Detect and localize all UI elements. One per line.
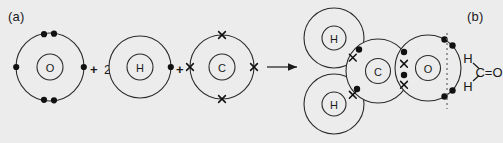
structural-formula: H H C=O [463,51,502,94]
carbon-symbol: C [218,62,226,74]
atom-hydrogen-reactant: H [109,36,174,98]
arrow-head [288,63,297,71]
oxygen-symbol: O [46,62,55,74]
oxygen-electron-dot [51,97,57,103]
figure-canvas: (a) (b) + 2 + O H [0,0,503,143]
lone-pair-electron-dot [449,87,455,93]
product-h-bottom-symbol: H [330,99,338,111]
product-methanal: H H C O [304,8,461,134]
atom-carbon-reactant: C [187,32,258,103]
formula-core: C=O [475,65,502,80]
oxygen-electron-dot [41,97,47,103]
oxygen-electron-dot [81,64,87,70]
lone-pair-electron-dot [449,42,455,48]
oxygen-electron-dot [41,31,47,37]
product-h-top-symbol: H [330,33,338,45]
oxygen-electron-dot [13,64,19,70]
formula-h-bottom: H [463,79,472,94]
atom-oxygen-reactant: O [13,31,87,104]
product-oxygen-symbol: O [424,63,433,75]
oxygen-electron-dot [51,31,57,37]
product-carbon-symbol: C [374,66,382,78]
hydrogen-symbol: H [136,62,144,74]
reaction-arrow [267,63,297,71]
bond-electron-dot [354,86,360,92]
bond-electron-dot [401,72,407,78]
diagram-svg: O H C [0,0,503,143]
bond-electron-dot [401,49,407,55]
hydrogen-electron-dot [168,64,174,70]
formula-h-top: H [463,51,472,66]
bond-electron-dot [356,46,362,52]
